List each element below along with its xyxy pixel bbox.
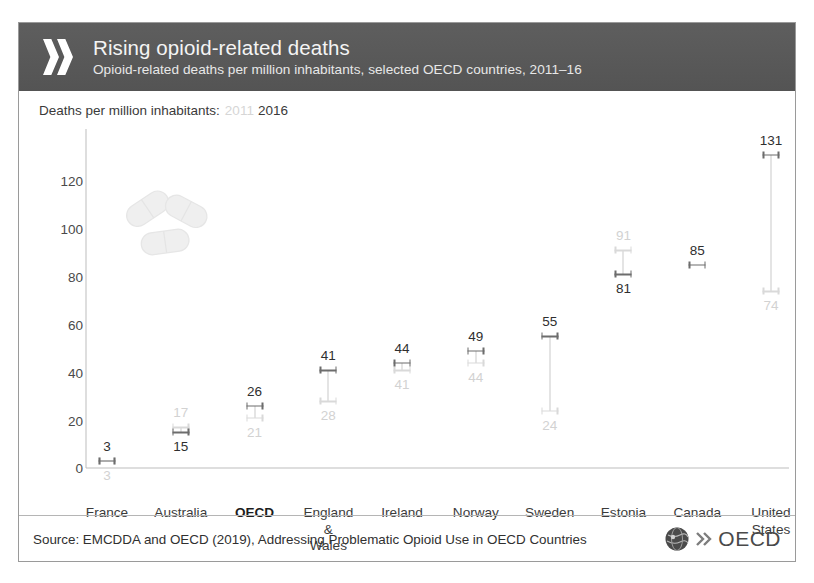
double-chevron-right-icon — [31, 23, 89, 91]
value-label-2016: 85 — [690, 244, 705, 258]
marker-2011 — [763, 288, 780, 295]
connector-stem — [771, 155, 772, 291]
marker-2016 — [689, 261, 706, 268]
marker-2011 — [615, 247, 632, 254]
marker-2016 — [320, 366, 337, 373]
chart-card: Rising opioid-related deaths Opioid-rela… — [18, 22, 796, 562]
legend: Deaths per million inhabitants:20112016 — [39, 103, 288, 118]
marker-2011 — [394, 366, 411, 373]
value-label-2016: 131 — [760, 134, 783, 148]
page-title: Rising opioid-related deaths — [93, 36, 582, 60]
header-text-block: Rising opioid-related deaths Opioid-rela… — [89, 36, 582, 78]
marker-2011 — [541, 407, 558, 414]
chart-header: Rising opioid-related deaths Opioid-rela… — [19, 23, 795, 91]
globe-icon — [664, 526, 690, 552]
value-label-2011: 3 — [103, 469, 111, 483]
marker-2011 — [246, 414, 263, 421]
marker-2016 — [615, 271, 632, 278]
value-label-2016: 55 — [542, 315, 557, 329]
value-label-2016: 26 — [247, 385, 262, 399]
value-label-2011: 74 — [763, 299, 778, 313]
plot-area: 120 100 80 60 40 20 0 331517262141284441… — [19, 123, 795, 503]
connector-stem — [328, 370, 329, 401]
marker-2016 — [467, 347, 484, 354]
marker-2016 — [763, 151, 780, 158]
marker-2016 — [541, 333, 558, 340]
value-label-2011: 21 — [247, 426, 262, 440]
marker-2011 — [320, 398, 337, 405]
value-label-2016: 41 — [321, 349, 336, 363]
legend-item-2011: 2011 — [225, 103, 254, 118]
data-group-united-states: 13174 — [723, 123, 796, 503]
connector-stem — [549, 336, 550, 410]
source-note: Source: EMCDDA and OECD (2019), Addressi… — [33, 532, 587, 547]
legend-item-2016: 2016 — [258, 103, 288, 118]
value-label-2016: 49 — [468, 330, 483, 344]
marker-2016 — [394, 359, 411, 366]
value-label-2011: 17 — [173, 406, 188, 420]
value-label-2011: 41 — [395, 378, 410, 392]
oecd-logo-text: OECD — [718, 527, 781, 551]
oecd-logo: OECD — [664, 526, 781, 552]
value-label-2016: 15 — [173, 440, 188, 454]
value-label-2011: 91 — [616, 229, 631, 243]
value-label-2016: 3 — [103, 440, 111, 454]
marker-2016 — [172, 429, 189, 436]
marker-2016 — [99, 457, 116, 464]
screenshot-root: Rising opioid-related deaths Opioid-rela… — [0, 0, 814, 583]
value-label-2016: 81 — [616, 282, 631, 296]
value-label-2016: 44 — [395, 342, 410, 356]
value-label-2011: 44 — [468, 371, 483, 385]
marker-2016 — [246, 402, 263, 409]
legend-axis-label: Deaths per million inhabitants: — [39, 103, 220, 118]
value-label-2011: 28 — [321, 409, 336, 423]
chart-footer: Source: EMCDDA and OECD (2019), Addressi… — [19, 516, 795, 562]
double-chevron-right-icon — [693, 528, 715, 550]
value-label-2011: 24 — [542, 419, 557, 433]
marker-2011 — [467, 359, 484, 366]
page-subtitle: Opioid-related deaths per million inhabi… — [93, 62, 582, 78]
